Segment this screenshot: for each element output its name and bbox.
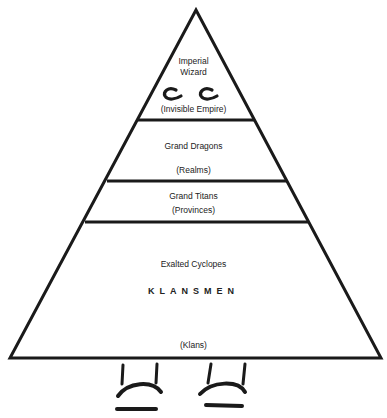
tier-4-domain: (Klans): [0, 340, 387, 351]
tier-1-title-line2: Wizard: [0, 67, 387, 78]
tier-2-domain: (Realms): [0, 165, 387, 176]
feet-icon: [117, 364, 245, 409]
tier-3-title: Grand Titans: [0, 191, 387, 202]
eyes-icon: [165, 89, 217, 99]
tier-1-title-line1: Imperial: [0, 56, 387, 67]
tier-4-title: Exalted Cyclopes: [0, 259, 387, 270]
tier-1-domain: (Invisible Empire): [0, 104, 387, 115]
tier-3-domain: (Provinces): [0, 205, 387, 216]
tier-2-title: Grand Dragons: [0, 141, 387, 152]
tier-4-members: KLANSMEN: [0, 286, 387, 297]
